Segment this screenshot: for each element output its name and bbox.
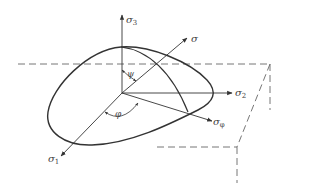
sigma3-subscript: 3 xyxy=(133,19,137,27)
sigma-axis xyxy=(122,38,187,93)
sigma-label: σ xyxy=(191,34,198,44)
sigma-phi-subscript: φ xyxy=(220,121,225,129)
sigma1-symbol: σ xyxy=(48,153,55,164)
meridian-curve xyxy=(121,47,188,112)
sigma3-label: σ3 xyxy=(126,15,137,27)
sigma-phi-label: σφ xyxy=(213,117,225,129)
sigma-phi-axis xyxy=(122,93,212,121)
sigma1-subscript: 1 xyxy=(55,158,59,166)
phi-angle-label: φ xyxy=(115,110,121,119)
sigma1-label: σ1 xyxy=(48,154,59,166)
phi-symbol: φ xyxy=(115,109,121,119)
sigma2-symbol: σ xyxy=(235,87,242,98)
sigma3-symbol: σ xyxy=(126,14,133,25)
plane-diagonal-edge xyxy=(237,64,270,147)
sigma2-subscript: 2 xyxy=(242,92,246,100)
sigma-phi-symbol: σ xyxy=(213,116,220,127)
psi-angle-label: ψ xyxy=(127,70,134,79)
sigma1-axis xyxy=(61,93,122,156)
psi-symbol: ψ xyxy=(127,69,134,79)
axes xyxy=(61,15,232,156)
sigma2-label: σ2 xyxy=(235,88,246,100)
sigma-symbol: σ xyxy=(191,33,198,44)
